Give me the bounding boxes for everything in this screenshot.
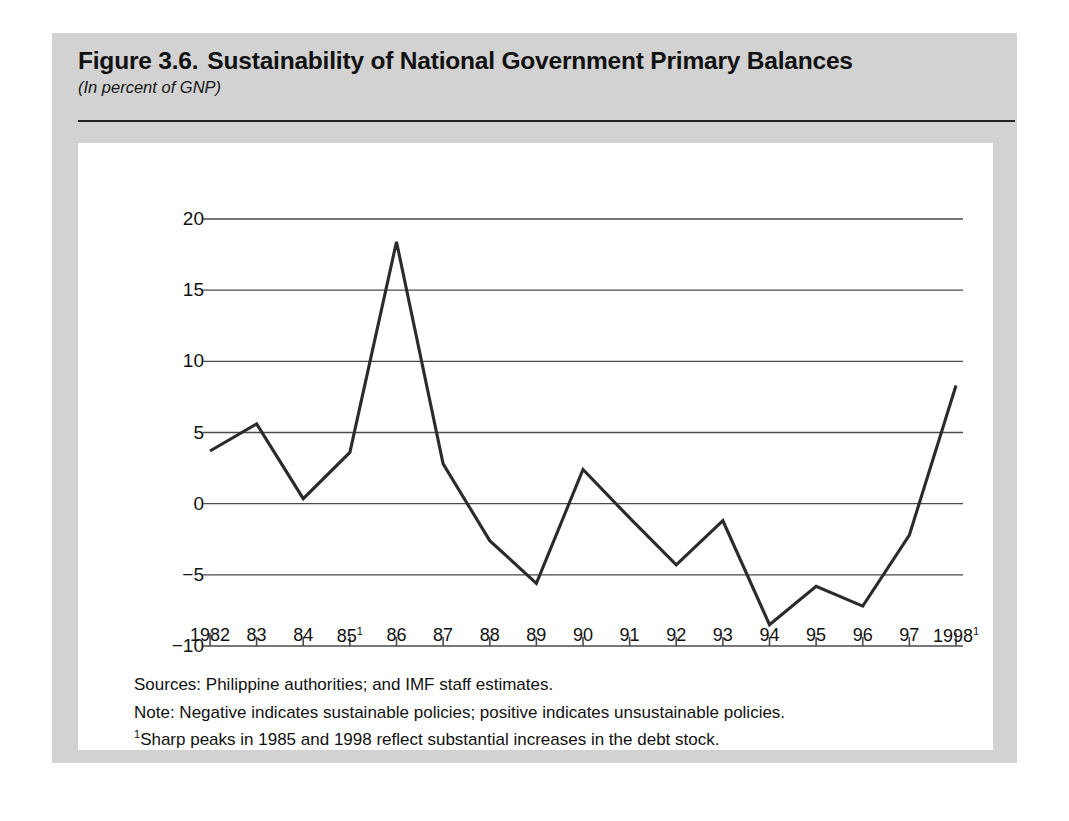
gridlines (203, 219, 963, 575)
x-axis-tick-label: 97 (899, 625, 919, 646)
footnotes-block: Sources: Philippine authorities; and IMF… (134, 671, 974, 754)
footnote-marked-text: Sharp peaks in 1985 and 1998 reflect sub… (140, 730, 719, 749)
footnote-note: Note: Negative indicates sustainable pol… (134, 699, 974, 727)
x-axis-tick-label: 95 (806, 625, 826, 646)
chart-container: 20151050−5−10 19828384851868788899091929… (78, 143, 993, 750)
x-axis-tick-label: 84 (293, 625, 313, 646)
data-series-line (210, 242, 956, 625)
x-axis-tick-label: 86 (386, 625, 406, 646)
x-axis-tick-label: 1982 (190, 625, 230, 646)
chart-plot-area: 20151050−5−10 19828384851868788899091929… (78, 143, 993, 663)
x-axis-tick-label: 19981 (933, 625, 979, 647)
x-axis-tick-label: 90 (573, 625, 593, 646)
x-axis-tick-label: 92 (666, 625, 686, 646)
x-axis-tick-label: 89 (526, 625, 546, 646)
x-axis-tick-label: 87 (433, 625, 453, 646)
x-axis-tick-label: 88 (480, 625, 500, 646)
x-axis-tick-label: 91 (620, 625, 640, 646)
x-axis-tick-label: 96 (853, 625, 873, 646)
x-axis-tick-label: 83 (247, 625, 267, 646)
x-axis-labels: 1982838485186878889909192939495969719981 (78, 625, 993, 655)
x-axis-tick-footnote-marker: 1 (357, 625, 363, 637)
x-axis-tick-label: 94 (759, 625, 779, 646)
x-axis-tick-label: 93 (713, 625, 733, 646)
chart-svg (78, 143, 993, 663)
x-axis-tick-footnote-marker: 1 (973, 625, 979, 637)
title-divider (78, 120, 1015, 122)
figure-title: Figure 3.6.Sustainability of National Go… (78, 47, 993, 75)
figure-header: Figure 3.6.Sustainability of National Go… (78, 47, 993, 97)
x-axis-tick-label: 851 (337, 625, 363, 647)
figure-number: Figure 3.6. (78, 47, 198, 74)
figure-subtitle: (In percent of GNP) (78, 78, 993, 97)
figure-title-text: Sustainability of National Government Pr… (207, 47, 852, 74)
figure-panel: Figure 3.6.Sustainability of National Go… (52, 33, 1017, 763)
footnote-sources: Sources: Philippine authorities; and IMF… (134, 671, 974, 699)
footnote-marked: 1Sharp peaks in 1985 and 1998 reflect su… (134, 726, 974, 754)
